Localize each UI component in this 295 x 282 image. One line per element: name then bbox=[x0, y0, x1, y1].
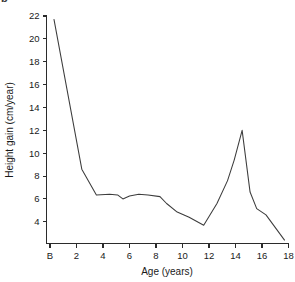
y-tick-label: 16 bbox=[29, 79, 40, 90]
y-tick-label: 20 bbox=[29, 33, 40, 44]
x-tick-label: 4 bbox=[100, 250, 105, 261]
y-tick-label: 22 bbox=[29, 10, 40, 21]
y-tick-label: 10 bbox=[29, 148, 40, 159]
y-tick-label: 14 bbox=[29, 102, 40, 113]
x-axis-ticks: B24681012141618 bbox=[47, 244, 294, 261]
y-tick-label: 18 bbox=[29, 56, 40, 67]
x-tick-label: 16 bbox=[257, 250, 268, 261]
x-tick-label: 18 bbox=[283, 250, 294, 261]
x-tick-label: 10 bbox=[177, 250, 188, 261]
x-tick-label: B bbox=[47, 250, 53, 261]
figure-container: b 46810121416182022 B24681012141618 Age … bbox=[0, 0, 295, 282]
x-tick-label: 2 bbox=[74, 250, 79, 261]
y-axis-ticks: 46810121416182022 bbox=[29, 10, 47, 227]
y-axis-title: Height gain (cm/year) bbox=[4, 82, 15, 178]
y-tick-label: 12 bbox=[29, 125, 40, 136]
x-tick-label: 6 bbox=[127, 250, 132, 261]
height-velocity-line bbox=[54, 19, 285, 240]
x-tick-label: 12 bbox=[204, 250, 215, 261]
x-axis-title: Age (years) bbox=[141, 266, 193, 277]
y-tick-label: 8 bbox=[34, 170, 39, 181]
x-tick-label: 8 bbox=[153, 250, 158, 261]
y-tick-label: 6 bbox=[34, 193, 39, 204]
height-velocity-chart: 46810121416182022 B24681012141618 Age (y… bbox=[0, 0, 295, 282]
y-tick-label: 4 bbox=[34, 216, 39, 227]
x-tick-label: 14 bbox=[230, 250, 241, 261]
